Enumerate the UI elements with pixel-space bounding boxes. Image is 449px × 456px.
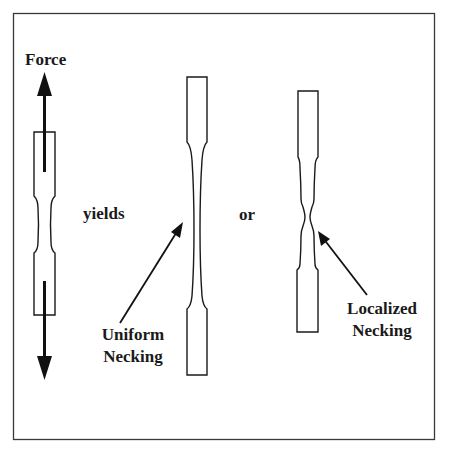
localized-necking-label: Localized Necking xyxy=(337,299,427,341)
localized-necking-label-line1: Localized xyxy=(337,299,427,319)
uniform-necking-specimen xyxy=(187,77,207,375)
diagram-frame xyxy=(14,14,435,440)
uniform-necking-label-line1: Uniform xyxy=(88,325,178,345)
localized-necking-pointer xyxy=(323,238,367,295)
diagram-canvas: Force yields or Uniform Necking Localize… xyxy=(0,0,449,456)
diagram-graphics xyxy=(0,0,449,456)
yields-label: yields xyxy=(83,204,125,224)
force-arrow-down-head xyxy=(37,356,52,380)
uniform-necking-pointer xyxy=(120,230,178,323)
localized-necking-label-line2: Necking xyxy=(337,321,427,341)
uniform-necking-pointer-head xyxy=(171,222,183,238)
force-arrow-up-head xyxy=(37,72,52,96)
force-label: Force xyxy=(25,50,66,70)
localized-necking-specimen xyxy=(297,91,318,332)
uniform-necking-label-line2: Necking xyxy=(88,347,178,367)
or-label: or xyxy=(239,205,255,225)
uniform-necking-label: Uniform Necking xyxy=(88,325,178,367)
